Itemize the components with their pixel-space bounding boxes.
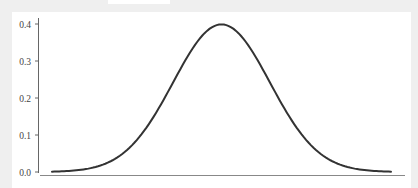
y-tick-label: 0.4	[19, 20, 31, 30]
y-tick-label: 0.2	[19, 94, 31, 104]
y-tick-labels: 0.4 0.3 0.2 0.1 0.0	[19, 20, 31, 178]
chart-svg: 0.4 0.3 0.2 0.1 0.0	[0, 0, 418, 188]
y-ticks	[35, 24, 39, 172]
normal-curve	[52, 24, 391, 171]
y-tick-label: 0.0	[19, 168, 31, 178]
y-tick-label: 0.3	[19, 57, 31, 67]
y-tick-label: 0.1	[19, 131, 31, 141]
